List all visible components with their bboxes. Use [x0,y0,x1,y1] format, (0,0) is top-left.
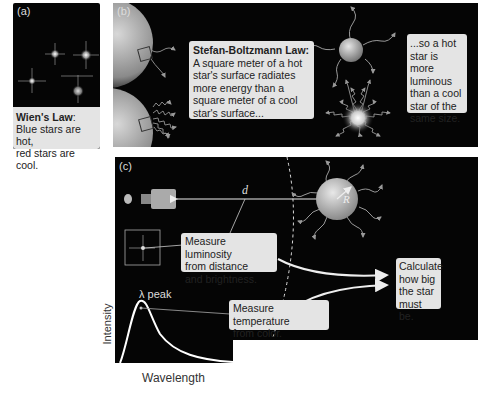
wiens-law-line-2: red stars are cool. [16,147,97,171]
lum-line: from distance [185,260,273,273]
sb-line: square meter of a cool [193,94,310,107]
measure-luminosity-box: Measure luminosity from distance and bri… [181,233,277,272]
sb-line: star's surface radiates [193,69,310,82]
panel-b-label: (b) [117,5,130,17]
hs-line: same size. [410,112,464,125]
lambda-peak-label: λ peak [139,288,171,300]
hs-line: star is more [410,50,464,75]
wiens-law-line-1: Blue stars are hot, [16,123,97,147]
wiens-law-caption: Wien's Law: Blue stars are hot, red star… [13,107,100,149]
hot-star-luminous-box: ...so a hot star is more luminous than a… [407,34,467,113]
lum-line: and brightness. [185,273,273,286]
lum-line: Measure luminosity [185,235,273,260]
stefan-boltzmann-box: Stefan-Boltzmann Law: A square meter of … [189,41,314,119]
calc-line: the star [399,285,438,298]
radius-symbol: R [343,193,350,205]
hs-line: star of the [410,100,464,113]
temp-line: from color. [233,327,325,340]
hs-line: luminous [410,75,464,88]
y-axis-label: Intensity [101,294,113,354]
x-axis-label: Wavelength [142,371,205,385]
wiens-law-title: Wien's Law [16,111,73,123]
calc-line: must be. [399,298,438,323]
spectrum-plot: λ peak [115,286,233,363]
measure-temperature-box: Measure temperature from color. [229,300,329,330]
calc-line: how big [399,273,438,286]
stefan-boltzmann-title: Stefan-Boltzmann Law: [193,44,310,57]
sb-line: A square meter of a hot [193,57,310,70]
distance-symbol: d [242,183,248,198]
temp-line: Measure temperature [233,302,325,327]
sb-line: more energy than a [193,82,310,95]
blackbody-curve [115,286,233,363]
hs-line: than a cool [410,87,464,100]
sb-line: star's surface... [193,107,310,120]
calc-line: Calculate [399,260,438,273]
panel-a-wiens-law: (a) Wien's Law: Blue stars are hot, red … [13,3,100,149]
panel-b-stefan-boltzmann: (b) [113,3,478,147]
calculate-size-box: Calculate how big the star must be. [396,258,441,309]
hs-line: ...so a hot [410,37,464,50]
